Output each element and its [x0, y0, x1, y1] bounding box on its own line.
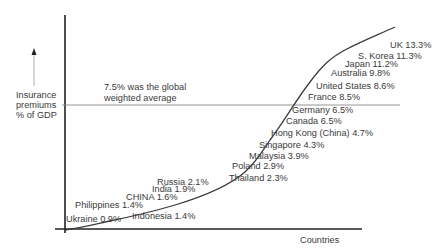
data-label-france: France 8.5%	[308, 92, 360, 102]
data-label-malaysia: Malaysia 3.9%	[249, 151, 309, 161]
average-annotation-line-2: weighted average	[103, 93, 177, 103]
data-label-russia: Russia 2.1%	[157, 177, 209, 187]
y-axis-title-line-1: Insurance	[16, 90, 56, 100]
data-label-germany: Germany 6.5%	[292, 105, 353, 115]
data-label-canada: Canada 6.5%	[286, 116, 342, 126]
data-label-poland: Poland 2.9%	[232, 161, 284, 171]
data-label-ukraine: Ukraine 0.9%	[66, 214, 121, 224]
data-label-singapore: Singapore 4.3%	[259, 140, 324, 150]
average-annotation-line-1: 7.5% was the global	[104, 82, 186, 92]
data-label-uk: UK 13.3%	[390, 40, 431, 50]
data-label-hong-kong-china: Hong Kong (China) 4.7%	[271, 128, 373, 138]
data-label-united-states: United States 8.6%	[316, 81, 395, 91]
s-curve-chart: 7.5% was the global weighted average Ins…	[0, 0, 445, 252]
data-label-s-korea: S. Korea 11.3%	[358, 51, 422, 61]
y-axis-title-line-3: % of GDP	[16, 110, 57, 120]
y-axis-title-line-2: premiums	[16, 100, 57, 110]
data-label-australia: Australia 9.8%	[331, 68, 390, 78]
up-arrow-icon	[32, 48, 37, 55]
x-axis-title: Countries	[300, 235, 340, 245]
data-label-thailand: Thailand 2.3%	[229, 173, 288, 183]
data-label-indonesia: Indonesia 1.4%	[132, 211, 195, 221]
